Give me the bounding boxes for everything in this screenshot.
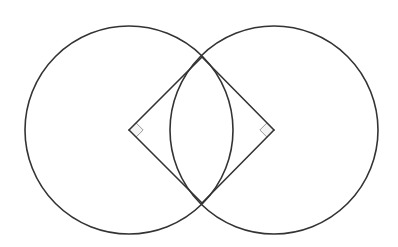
- left-right-angle-icon: [129, 123, 143, 137]
- segment-right-to-bottom: [202, 130, 274, 203]
- right-angle-markers: [129, 123, 274, 137]
- right-right-angle-icon: [260, 123, 274, 137]
- segment-left-to-top: [129, 57, 202, 130]
- kite-segments: [129, 57, 274, 203]
- segment-left-to-bottom: [129, 130, 202, 203]
- segment-right-to-top: [202, 57, 274, 130]
- geometry-diagram: [0, 0, 398, 247]
